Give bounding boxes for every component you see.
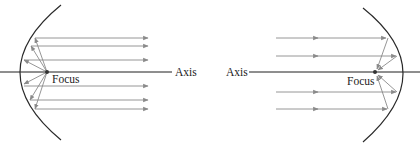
axis-label-left: Axis [175, 66, 197, 78]
mirror-to-focus-rays-right [377, 38, 397, 109]
focus-point-right [373, 70, 377, 74]
focus-point-left [45, 70, 49, 74]
parabola-diagram: Axis Focus Axis [0, 0, 420, 154]
incoming-parallel-rays-right [276, 38, 396, 109]
focus-label-left: Focus [52, 73, 80, 85]
right-panel: Axis Focus [226, 8, 420, 142]
focus-to-mirror-rays-left [24, 38, 47, 109]
parallel-rays-left [24, 38, 148, 109]
left-panel: Axis Focus [0, 5, 197, 140]
axis-label-right: Axis [226, 66, 248, 78]
focus-label-right: Focus [347, 75, 375, 87]
